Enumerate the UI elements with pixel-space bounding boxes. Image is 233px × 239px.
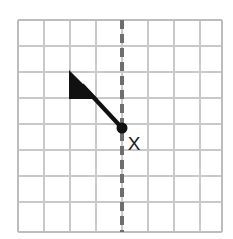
endpoint-dot bbox=[117, 123, 128, 134]
point-label-x: X bbox=[128, 133, 141, 154]
figure-root: X bbox=[0, 0, 233, 239]
grid-figure-svg: X bbox=[0, 0, 233, 239]
